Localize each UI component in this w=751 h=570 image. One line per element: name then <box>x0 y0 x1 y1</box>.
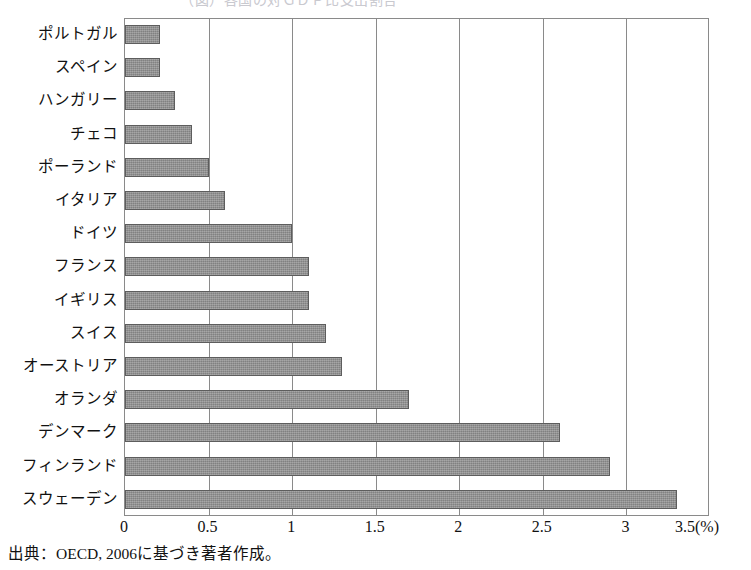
source-note: 出典：OECD, 2006に基づき著者作成。 <box>8 541 281 563</box>
bar-スペイン <box>125 58 160 77</box>
chart-row <box>125 318 708 349</box>
bar-オランダ <box>125 390 409 409</box>
xtick-label-0: 0 <box>120 518 128 536</box>
category-label-ハンガリー: ハンガリー <box>38 84 118 115</box>
category-label-フィンランド: フィンランド <box>22 450 118 481</box>
chart-row <box>125 451 708 482</box>
category-label-スイス: スイス <box>70 317 118 348</box>
category-label-ドイツ: ドイツ <box>70 217 118 248</box>
category-label-イタリア: イタリア <box>55 184 118 215</box>
chart-row <box>125 218 708 249</box>
category-label-ポルトガル: ポルトガル <box>38 18 118 49</box>
bar-イタリア <box>125 191 225 210</box>
bar-フィンランド <box>125 457 610 476</box>
chart-row <box>125 52 708 83</box>
chart-row <box>125 285 708 316</box>
category-label-デンマーク: デンマーク <box>38 416 118 447</box>
chart-row <box>125 351 708 382</box>
chart-row <box>125 19 708 50</box>
xtick-label-1: 1 <box>287 518 295 536</box>
category-label-スペイン: スペイン <box>55 51 118 82</box>
chart-row <box>125 185 708 216</box>
bar-フランス <box>125 257 309 276</box>
chart-row <box>125 384 708 415</box>
bar-スイス <box>125 324 326 343</box>
xtick-label-3.5: 3.5(%) <box>675 518 719 536</box>
chart-row <box>125 85 708 116</box>
bar-デンマーク <box>125 423 560 442</box>
bar-ドイツ <box>125 224 292 243</box>
bar-ポルトガル <box>125 25 160 44</box>
xtick-label-1.5: 1.5 <box>365 518 385 536</box>
xtick-label-3: 3 <box>621 518 629 536</box>
bar-イギリス <box>125 291 309 310</box>
chart-row <box>125 484 708 515</box>
bar-スウェーデン <box>125 490 677 509</box>
category-label-イギリス: イギリス <box>54 284 118 315</box>
plot-area <box>124 18 709 516</box>
chart-row <box>125 152 708 183</box>
category-label-チェコ: チェコ <box>70 118 118 149</box>
bar-オーストリア <box>125 357 342 376</box>
category-label-オランダ: オランダ <box>54 383 118 414</box>
category-label-ポーランド: ポーランド <box>38 151 118 182</box>
bar-chart-figure: ポルトガルスペインハンガリーチェコポーランドイタリアドイツフランスイギリススイス… <box>0 0 751 570</box>
chart-row <box>125 119 708 150</box>
category-label-オーストリア: オーストリア <box>23 350 118 381</box>
xtick-label-0.5: 0.5 <box>198 518 218 536</box>
category-label-スウェーデン: スウェーデン <box>22 483 118 514</box>
chart-row <box>125 417 708 448</box>
xtick-label-2: 2 <box>454 518 462 536</box>
bar-チェコ <box>125 125 192 144</box>
chart-row <box>125 251 708 282</box>
bar-ハンガリー <box>125 91 175 110</box>
bar-ポーランド <box>125 158 209 177</box>
category-label-フランス: フランス <box>54 250 118 281</box>
xtick-label-2.5: 2.5 <box>532 518 552 536</box>
